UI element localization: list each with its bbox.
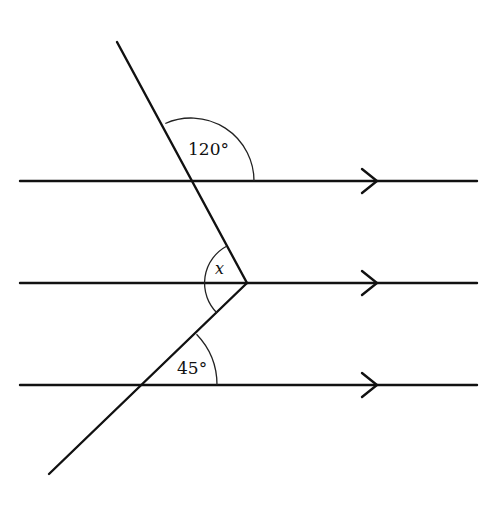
angle-label-x: x bbox=[215, 259, 224, 278]
parallel-lines-diagram: 120° x 45° bbox=[0, 0, 498, 506]
angle-label-45: 45° bbox=[177, 358, 207, 378]
angle-label-120: 120° bbox=[188, 139, 229, 159]
angle-arc-x bbox=[205, 246, 227, 313]
transversal-upper bbox=[117, 42, 247, 283]
